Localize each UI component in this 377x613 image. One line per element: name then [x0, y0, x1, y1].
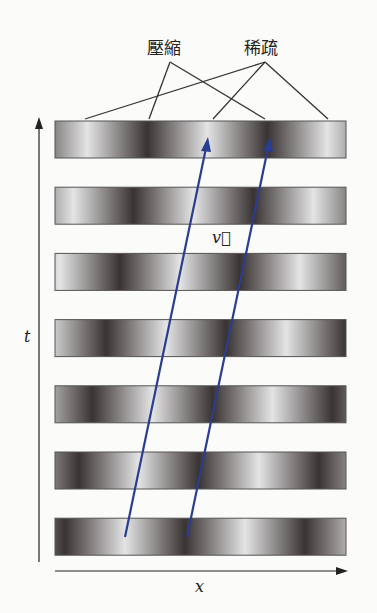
velocity-label: v⃗ — [212, 228, 231, 247]
rarefaction-label: 稀疏 — [244, 34, 278, 59]
wave-bar-7 — [55, 518, 346, 555]
rarefaction-pointer-3 — [265, 62, 328, 119]
wave-bar-1 — [55, 121, 346, 158]
wave-bar-4 — [55, 320, 346, 357]
compression-pointer-1 — [149, 62, 170, 119]
space-axis-label: x — [195, 577, 204, 596]
compression-pointer-2 — [170, 62, 265, 119]
wave-bar-5 — [55, 386, 346, 423]
time-axis-arrowhead — [35, 117, 43, 129]
compression-label: 壓縮 — [147, 34, 181, 59]
wave-bar-2 — [55, 187, 346, 224]
rarefaction-pointer-1 — [85, 62, 265, 119]
time-axis-label: t — [24, 327, 30, 346]
wave-bar-3 — [55, 253, 346, 290]
space-axis-arrowhead — [336, 567, 348, 575]
wave-diagram — [0, 0, 377, 613]
